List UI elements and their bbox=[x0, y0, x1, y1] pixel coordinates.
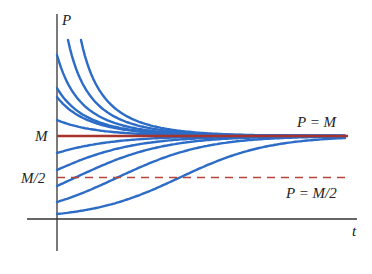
y-axis-label: P bbox=[61, 12, 71, 28]
tick-label-M2: M/2 bbox=[20, 170, 46, 186]
line-label-P-equals-M: P = M bbox=[296, 114, 338, 130]
solution-curve bbox=[57, 138, 345, 214]
line-label-P-equals-M2: P = M/2 bbox=[285, 185, 337, 201]
tick-label-M: M bbox=[34, 128, 49, 144]
logistic-chart: P t M M/2 P = M P = M/2 bbox=[0, 0, 372, 274]
x-axis-label: t bbox=[352, 223, 357, 239]
